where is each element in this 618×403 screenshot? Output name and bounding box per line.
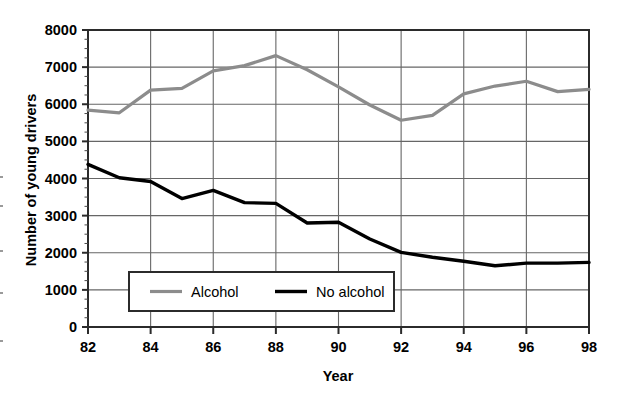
x-axis-title: Year: [323, 368, 354, 384]
page-edge-mark: [0, 205, 3, 207]
x-tick-label: 90: [330, 339, 346, 355]
x-tick-label: 82: [80, 339, 96, 355]
page-edge-mark: [0, 176, 3, 178]
legend-label-no-alcohol: No alcohol: [316, 284, 385, 300]
y-tick-label: 7000: [45, 59, 77, 75]
y-tick-label: 3000: [45, 208, 77, 224]
x-tick-label: 98: [581, 339, 597, 355]
x-tick-label: 88: [268, 339, 284, 355]
x-tick-label: 94: [456, 339, 472, 355]
x-tick-label: 92: [393, 339, 409, 355]
page-edge-mark: [0, 292, 3, 294]
line-chart: 010002000300040005000600070008000 828486…: [0, 0, 618, 403]
y-tick-label: 0: [69, 319, 77, 335]
x-tick-label: 96: [518, 339, 534, 355]
chart-legend[interactable]: AlcoholNo alcohol: [129, 272, 394, 311]
y-axis-title: Number of young drivers: [23, 94, 39, 266]
y-tick-label: 8000: [45, 22, 77, 38]
x-tick-label: 86: [205, 339, 221, 355]
y-tick-label: 2000: [45, 245, 77, 261]
chart-figure: 010002000300040005000600070008000 828486…: [0, 0, 618, 403]
x-tick-label: 84: [143, 339, 159, 355]
y-tick-label: 1000: [45, 282, 77, 298]
y-tick-label: 5000: [45, 133, 77, 149]
legend-label-alcohol: Alcohol: [191, 284, 239, 300]
page-edge-mark: [0, 340, 3, 342]
y-tick-label: 6000: [45, 96, 77, 112]
page-edge-mark: [0, 250, 3, 252]
y-tick-label: 4000: [45, 171, 77, 187]
